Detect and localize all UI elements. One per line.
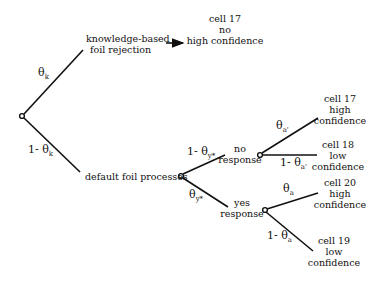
outcome-top: cell 17 no high confidence: [184, 13, 266, 46]
edge-root-knowledge: [24, 50, 83, 114]
theta-symbol: θ: [294, 156, 301, 169]
outcome-yes-low-line1: cell 19: [306, 235, 362, 246]
theta-subscript: k: [49, 150, 53, 158]
theta-symbol: θ: [42, 143, 49, 156]
default-foil-label: default foil processes: [85, 171, 188, 182]
theta-subscript: a: [288, 236, 292, 244]
yes-response-label: yes response: [220, 197, 264, 219]
outcome-no-low-line1: cell 18: [310, 139, 366, 150]
no-line1: no: [218, 143, 262, 154]
yes-line1: yes: [220, 197, 264, 208]
no-line2: response: [218, 154, 262, 165]
edge-label-one-minus-theta-ystar: 1- θy*: [187, 146, 215, 162]
theta-symbol: θ: [201, 145, 208, 158]
theta-symbol: θ: [281, 229, 288, 242]
outcome-no-low-line3: confidence: [310, 161, 366, 172]
outcome-top-line3: high confidence: [184, 35, 266, 46]
theta-symbol: θ: [189, 188, 196, 201]
edge-label-theta-aprime: θa': [276, 120, 289, 136]
outcome-no-high: cell 17 high confidence: [312, 93, 368, 126]
one-minus-prefix: 1-: [187, 145, 198, 158]
outcome-no-high-line3: confidence: [312, 115, 368, 126]
knowledge-line1: knowledge-based: [86, 33, 170, 44]
edge-label-one-minus-theta-aprime: 1- θa': [280, 157, 307, 173]
outcome-yes-low: cell 19 low confidence: [306, 235, 362, 268]
edge-label-one-minus-theta-a: 1- θa: [267, 230, 292, 246]
theta-subscript: k: [45, 73, 49, 81]
theta-subscript: a': [301, 163, 307, 171]
theta-subscript: y*: [196, 195, 203, 203]
outcome-no-high-line2: high: [312, 104, 368, 115]
outcome-yes-high-line2: high: [312, 188, 368, 199]
outcome-yes-low-line3: confidence: [306, 257, 362, 268]
one-minus-prefix: 1-: [28, 143, 39, 156]
outcome-top-line2: no: [184, 24, 266, 35]
outcome-no-high-line1: cell 17: [312, 93, 368, 104]
outcome-top-line1: cell 17: [184, 13, 266, 24]
outcome-yes-low-line2: low: [306, 246, 362, 257]
outcome-yes-high-line3: confidence: [312, 199, 368, 210]
outcome-no-low: cell 18 low confidence: [310, 139, 366, 172]
theta-subscript: a: [290, 189, 294, 197]
edge-label-theta-a: θa: [283, 183, 294, 199]
theta-subscript: y*: [208, 152, 215, 160]
outcome-yes-high: cell 20 high confidence: [312, 177, 368, 210]
theta-subscript: a': [283, 126, 289, 134]
knowledge-line2: foil rejection: [86, 44, 170, 55]
root-node: [20, 114, 25, 119]
edge-label-one-minus-theta-k: 1- θk: [28, 144, 53, 160]
outcome-yes-high-line1: cell 20: [312, 177, 368, 188]
theta-symbol: θ: [38, 66, 45, 79]
outcome-no-low-line2: low: [310, 150, 366, 161]
theta-symbol: θ: [276, 119, 283, 132]
theta-symbol: θ: [283, 182, 290, 195]
one-minus-prefix: 1-: [267, 229, 278, 242]
yes-line2: response: [220, 208, 264, 219]
knowledge-based-label: knowledge-based foil rejection: [86, 33, 170, 55]
no-response-label: no response: [218, 143, 262, 165]
edge-label-theta-k: θk: [38, 67, 49, 83]
one-minus-prefix: 1-: [280, 156, 291, 169]
edge-label-theta-ystar: θy*: [189, 189, 203, 205]
